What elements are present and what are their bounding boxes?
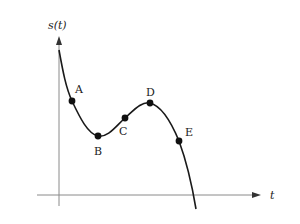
point-b bbox=[95, 133, 102, 140]
x-axis-label: t bbox=[270, 189, 275, 202]
y-axis-label: s(t) bbox=[48, 19, 67, 32]
position-time-graph: s(t) t A B C D E bbox=[0, 0, 300, 224]
point-a-label: A bbox=[74, 83, 84, 96]
point-d-label: D bbox=[146, 86, 155, 99]
point-e bbox=[176, 138, 183, 145]
y-axis-arrow-icon bbox=[56, 36, 62, 45]
point-c-label: C bbox=[119, 125, 127, 138]
point-b-label: B bbox=[94, 145, 102, 158]
position-curve bbox=[59, 50, 196, 209]
point-a bbox=[69, 98, 76, 105]
point-c bbox=[122, 115, 129, 122]
point-e-label: E bbox=[185, 126, 193, 139]
x-axis-arrow-icon bbox=[252, 192, 261, 198]
point-d bbox=[147, 100, 154, 107]
